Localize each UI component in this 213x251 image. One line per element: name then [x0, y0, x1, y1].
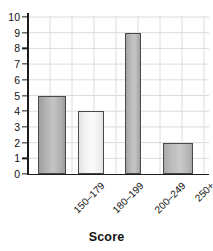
- x-tick-label: 150–179: [71, 180, 106, 215]
- x-tick-label: 180–199: [110, 180, 145, 215]
- x-axis-title: Score: [0, 230, 213, 244]
- bar: [78, 111, 104, 174]
- bar-chart: 012345678910 150–179180–199200–249250+ S…: [0, 0, 213, 251]
- x-tick-label: 200–249: [152, 180, 187, 215]
- bar: [38, 96, 66, 175]
- x-tick-label: 250+: [193, 180, 213, 204]
- x-axis-ticks: 150–179180–199200–249250+: [0, 176, 213, 228]
- bar: [163, 143, 193, 174]
- bar: [125, 33, 141, 174]
